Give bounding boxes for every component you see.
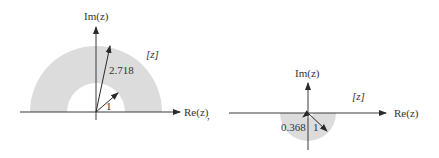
plane-label: [z] <box>352 90 365 102</box>
trailing-comma: , <box>207 109 210 121</box>
imag-axis-label: Im(z) <box>84 10 109 23</box>
diagram-canvas: Im(z) Re(z) , [z] 2.718 1 Im(z) Re(z) [z… <box>0 0 439 158</box>
outer-radius-label: 1 <box>313 121 319 133</box>
plane-label: [z] <box>146 48 159 60</box>
inner-radius-label: 0.368 <box>281 121 306 133</box>
inner-radius-label: 1 <box>106 100 112 112</box>
real-axis-label: Re(z) <box>184 106 209 119</box>
inner-radius-arrow <box>303 113 308 117</box>
real-axis-label: Re(z) <box>394 107 419 120</box>
imag-axis-label: Im(z) <box>295 67 320 80</box>
outer-radius-label: 2.718 <box>109 64 134 76</box>
right-diagram: Im(z) Re(z) [z] 0.368 1 <box>229 67 419 150</box>
left-diagram: Im(z) Re(z) , [z] 2.718 1 <box>20 10 210 121</box>
